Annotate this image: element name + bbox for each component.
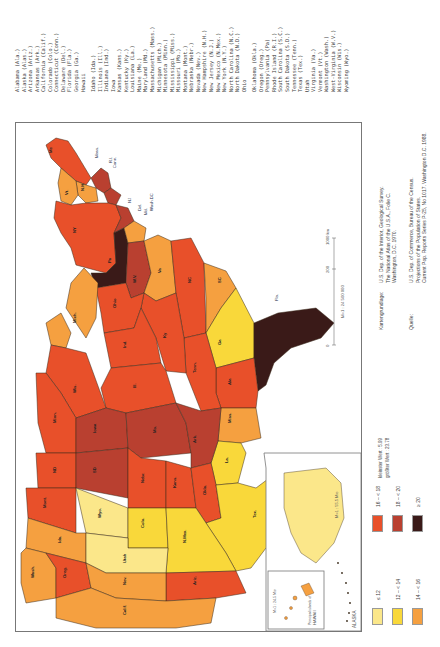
state-label-wv: W.V. [132, 275, 137, 283]
state-label-pa: Pa [107, 257, 112, 263]
state-label-minn: Minn. [52, 412, 57, 423]
basemap-line: Washington, D.C. 1970. [391, 230, 397, 283]
state-list-item: Nevada (Nev.) [195, 51, 201, 92]
state-list-item: Minnesota (Minn.) [162, 39, 168, 92]
state-label-iowa: Iowa [92, 423, 97, 433]
state-label-nd: ND [52, 467, 57, 473]
state-list-item: Florida (Fla.) [66, 48, 72, 92]
state-list-item: Tennessee (Tenn.) [291, 39, 297, 92]
legend-label: 18 – < 20 [395, 486, 401, 507]
state-label-ark: Ark. [192, 435, 197, 443]
state-list-item: North Carolina (N.C.) [228, 26, 234, 92]
legend-label: 16 – < 18 [375, 486, 381, 507]
state-label-okla: Okla. [202, 485, 207, 495]
state-list-item: Indiana (Ind.) [103, 48, 109, 92]
state-list-item: Maryland (Md.) [142, 48, 148, 92]
legend-swatch [412, 515, 423, 532]
map-frame: MeMass.R.I.Conn.N.H.Vt.NYNJDel.Md.Wash.D… [15, 122, 362, 632]
source-label: Quelle: [408, 314, 414, 330]
legend-swatch [392, 515, 403, 532]
state-label-la: La. [224, 457, 229, 463]
basemap-label: Kartengrundlage: [378, 292, 384, 330]
state-list-item: New Mexico (N.Mex.) [215, 33, 221, 92]
state-list-item: Pennsylvania (Pa) [264, 39, 270, 92]
state-label-nh: N.H. [80, 183, 85, 191]
state-label-ga: Ga [217, 339, 222, 345]
alaska-label: ALASKA [352, 610, 357, 628]
state-list-item: Virginia (Va.) [310, 48, 316, 92]
state-list-item: Alabama (Ala.) [14, 48, 20, 92]
state-label-ill: Ill. [132, 383, 137, 388]
state-label-ny: NY [72, 227, 77, 233]
state-label-nev: Nev. [122, 576, 127, 585]
state-list-item: North Dakota (N.D.) [234, 33, 240, 92]
state-list-item: Colorado (Colo.) [47, 42, 53, 92]
state-list-item: Montana (Mont.) [182, 45, 188, 92]
state-list-item: Texas (Tex.) [297, 55, 303, 92]
state-label-nebr: Nebr. [140, 473, 145, 483]
state-list-item: Maine (Me.) [136, 58, 142, 92]
state-label-nmex: N.Mex. [182, 530, 187, 544]
source-line: U.S. Dep. of Commerce, Bureau of the Cen… [408, 177, 414, 283]
state-list-item: Idaho (Ida.) [90, 55, 96, 92]
state-list-item: Iowa [110, 80, 116, 93]
legend-label: 12 – < 14 [395, 579, 401, 600]
state-label-ky: Ky [162, 332, 167, 338]
state-list-item: California (Calif.) [40, 33, 46, 92]
scale-ratio: M=1 : 24 500 000 [340, 285, 345, 318]
state-florida [254, 308, 334, 391]
state-label-vt: Vt. [64, 190, 69, 195]
state-label-nc: NC [187, 277, 192, 283]
basemap-line: The National Atlas of the U.S.A., Folie … [385, 193, 391, 283]
state-label-miss: Miss. [227, 413, 232, 423]
source-line: Projections of the Population of States. [415, 197, 421, 283]
state-list-item: Hawaii [80, 73, 86, 92]
legend-swatch [392, 608, 403, 625]
state-list-item: New York (N.Y.) [221, 45, 227, 92]
max-value-label: größter Wert : 23.78 [385, 438, 390, 478]
state-label-ala: Ala [227, 378, 232, 385]
state-label-ind: Ind. [122, 341, 127, 348]
state-label-fla: Fla. [274, 294, 279, 301]
state-list-item: Georgia (Ga.) [73, 51, 79, 92]
scale-bar [332, 238, 336, 345]
state-list-item: South Dakota (S.D.) [284, 33, 290, 92]
state-label-mont: Mont. [42, 497, 47, 508]
choropleth-map: MeMass.R.I.Conn.N.H.Vt.NYNJDel.Md.Wash.D… [16, 123, 363, 633]
state-label-tenn: Tenn. [192, 362, 197, 373]
state-list-item: Delaware (Del.) [60, 45, 66, 92]
state-label-va: Va [157, 267, 162, 273]
state-list-item: Ohio [241, 80, 247, 93]
state-list-item: New Jersey (N.J.) [208, 39, 214, 92]
state-list-item: Oregon (Oreg.) [258, 48, 264, 92]
state-label-ariz: Ariz. [192, 576, 197, 585]
scale-tick-1000: 1000 km [325, 228, 330, 245]
state-label-md: Md. [143, 208, 148, 215]
state-list-item: Wyoming (Wyo.) [343, 48, 349, 92]
state-label-wyo: Wyo. [97, 508, 102, 518]
state-label-ohio: Ohio [112, 298, 117, 308]
state-label-conn: Conn. [112, 157, 117, 168]
state-abbreviation-list: Alabama (Ala.)Alaska (Alas.)Arizona (Ari… [14, 12, 359, 98]
state-list-item: Connecticut (Conn.) [53, 33, 59, 92]
state-list-item: Arizona (Ariz.) [27, 45, 33, 92]
state-list-item: Massachusetts (Mass.) [149, 26, 155, 92]
state-list-item: Vermont (Vt.) [317, 51, 323, 92]
state-list-item: Rhode Island (R.I.) [271, 33, 277, 92]
state-list-item: Michigan (Mich.) [156, 42, 162, 92]
state-list-item: Kentucky (Ky.) [123, 48, 129, 92]
state-label-mich: Mich. [72, 312, 77, 323]
state-mississippi [218, 408, 261, 443]
state-label-me: Me [48, 147, 53, 153]
legend-swatch [372, 515, 383, 532]
state-list-item: Louisiana (La.) [129, 45, 135, 92]
hawaii-sub: Principal islands of [308, 596, 312, 625]
state-list-item: Kansas (Kans.) [116, 48, 122, 92]
state-label-wis: Wis. [72, 384, 77, 393]
state-michigan-up [46, 313, 71, 348]
state-label-utah: Utah [122, 553, 127, 563]
state-list-item: New Hampshire (N.H.) [201, 30, 207, 92]
state-list-item: Mississippi (Miss.) [169, 33, 175, 92]
state-list-item: Oklahoma (Okla.) [251, 42, 257, 92]
state-label-nj: NJ [127, 198, 132, 203]
